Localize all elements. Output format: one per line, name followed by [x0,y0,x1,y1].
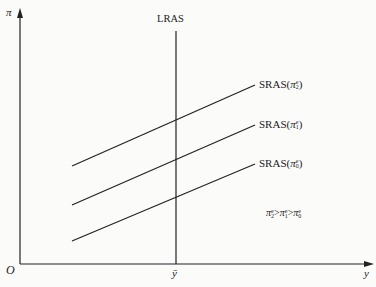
sras-label-2-suffix: ) [299,78,303,90]
y-axis [17,8,23,264]
sras-label-1: SRAS(πe1) [259,119,302,131]
sras-line-2 [72,85,255,166]
y-axis-arrow-icon [17,8,23,18]
diagram-canvas [0,0,376,287]
sras-label-0-prefix: SRAS( [259,157,290,169]
sras-label-1-suffix: ) [299,118,303,130]
sras-line-1 [72,125,255,205]
sras-label-0-suffix: ) [299,157,303,169]
sras-label-2-prefix: SRAS( [259,78,290,90]
expectation-ordering-note: πe2>πe1>πe0 [266,208,301,219]
x-axis [20,261,374,267]
x-axis-label: y [364,268,369,279]
x-tick-label-ybar: ȳ [172,268,177,279]
sras-label-1-prefix: SRAS( [259,118,290,130]
sras-label-2: SRAS(πe2) [259,79,302,91]
note-term-0-sub: 0 [298,214,301,219]
sras-label-0: SRAS(πe0) [259,158,302,170]
y-axis-label: π [6,7,12,18]
sras-line-0 [72,164,255,241]
lras-label: LRAS [157,14,184,25]
origin-label: O [6,264,15,276]
